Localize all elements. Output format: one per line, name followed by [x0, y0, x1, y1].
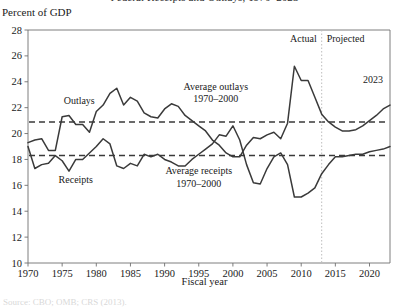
source-note: Source: CBO; OMB; CRS (2013).: [3, 297, 127, 307]
y-tick-label: 20: [12, 128, 23, 139]
annotation-average-receipts-line1: Average receipts: [165, 165, 232, 176]
y-tick-label: 22: [12, 102, 23, 113]
y-tick-label: 12: [12, 232, 23, 243]
annotation-end-year: 2023: [363, 74, 383, 85]
annotation-average-outlays-line2: 1970–2000: [193, 93, 238, 104]
y-tick-label: 28: [12, 25, 23, 36]
chart-title: Federal Receipts and Outlays, 1970–2023: [0, 0, 409, 3]
annotation-projected: Projected: [327, 33, 365, 44]
annotation-outlays: Outlays: [64, 95, 95, 106]
annotation-receipts: Receipts: [59, 174, 94, 185]
y-tick-label: 16: [12, 180, 23, 191]
y-tick-label: 18: [12, 154, 23, 165]
annotation-average-outlays-line1: Average outlays: [184, 81, 249, 92]
x-axis-title: Fiscal year: [0, 276, 409, 287]
y-axis-ticks: 10121416182022242628: [12, 25, 29, 269]
chart-annotations: Actual Projected Outlays Receipts Averag…: [59, 33, 383, 189]
annotation-actual: Actual: [290, 33, 317, 44]
y-tick-label: 24: [12, 76, 23, 87]
y-tick-label: 10: [12, 258, 23, 269]
y-tick-label: 26: [12, 50, 23, 61]
y-axis-unit-label: Percent of GDP: [2, 6, 72, 18]
annotation-average-receipts-line2: 1970–2000: [176, 178, 221, 189]
y-tick-label: 14: [12, 206, 23, 217]
